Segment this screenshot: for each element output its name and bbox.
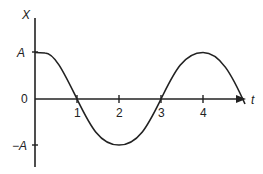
x-tick-label-3: 3 xyxy=(158,106,165,120)
x-tick-label-1: 1 xyxy=(74,106,81,120)
y-tick-label-neg-A: −A xyxy=(12,139,27,153)
x-axis-label: t xyxy=(251,93,255,107)
y-tick-label-A: A xyxy=(16,46,25,60)
y-tick-label-0: 0 xyxy=(21,92,28,106)
x-tick-label-2: 2 xyxy=(116,106,123,120)
chart: X t A 0 −A 1 2 3 4 xyxy=(0,0,263,174)
x-tick-label-4: 4 xyxy=(200,106,207,120)
y-axis-label: X xyxy=(21,8,31,22)
